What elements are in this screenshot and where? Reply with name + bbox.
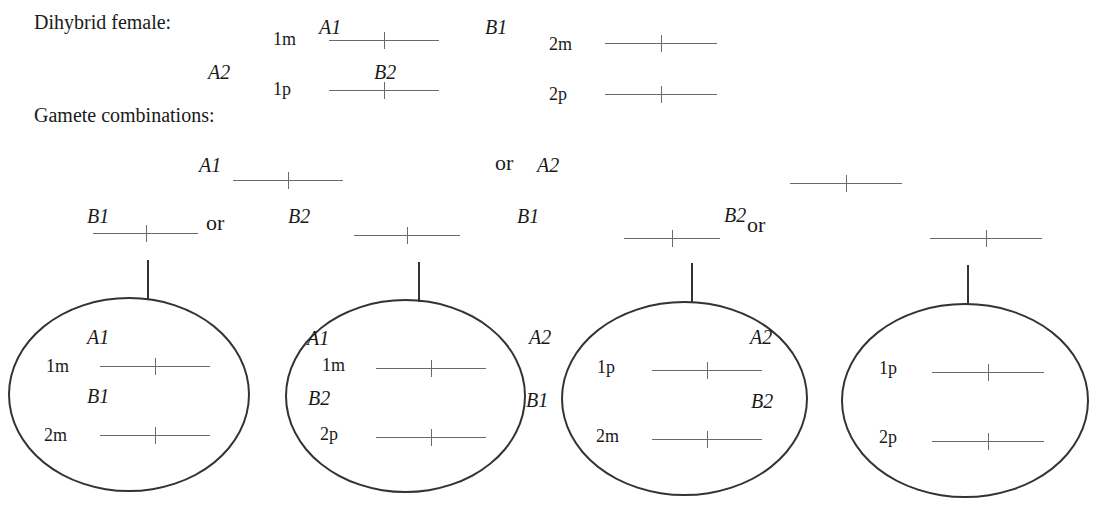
gamete-stem xyxy=(147,260,149,300)
gamete-1-chromosome-1 xyxy=(100,366,210,367)
gamete-cell-4 xyxy=(841,303,1089,498)
choice-allele-a1: A1 xyxy=(199,155,221,175)
gamete-3-locus-1: 1p xyxy=(597,358,615,376)
gamete-3-chromosome-2 xyxy=(652,439,762,440)
centromere-mark xyxy=(155,427,156,444)
centromere-mark xyxy=(988,433,989,450)
choice-allele-b2-right: B2 xyxy=(724,205,746,225)
gamete-2-allele-b: B2 xyxy=(308,388,330,408)
choice-allele-b1-right: B1 xyxy=(517,206,539,226)
choice-chromosome-a2 xyxy=(790,183,902,184)
centromere-mark xyxy=(431,360,432,377)
choice-allele-a2: A2 xyxy=(537,155,559,175)
locus-label-1p: 1p xyxy=(273,80,291,98)
gamete-stem xyxy=(418,262,420,302)
chromosome-2m xyxy=(605,43,717,44)
centromere-mark xyxy=(707,362,708,379)
centromere-mark xyxy=(661,35,662,52)
gamete-4-chromosome-1 xyxy=(932,372,1044,373)
gamete-3-allele-b-outside: B1 xyxy=(526,390,548,410)
centromere-mark xyxy=(384,82,385,99)
gamete-2-allele-a: A1 xyxy=(307,328,329,348)
choice-allele-b2-left: B2 xyxy=(288,206,310,226)
gamete-3-chromosome-1 xyxy=(652,370,762,371)
allele-label-a1: A1 xyxy=(319,17,341,37)
or-label: or xyxy=(747,214,765,236)
centromere-mark xyxy=(672,230,673,247)
chromosome-2p xyxy=(605,94,717,95)
choice-chromosome-b1-right xyxy=(624,238,720,239)
gamete-combinations-title: Gamete combinations: xyxy=(34,105,215,125)
gamete-stem xyxy=(967,265,969,305)
gamete-stem xyxy=(691,263,693,303)
gamete-1-allele-b: B1 xyxy=(87,386,109,406)
choice-chromosome-b2-left xyxy=(354,235,460,236)
gamete-3-allele-a-outside: A2 xyxy=(529,327,551,347)
gamete-1-locus-1: 1m xyxy=(46,357,69,375)
centromere-mark xyxy=(986,230,987,247)
centromere-mark xyxy=(988,364,989,381)
dihybrid-female-title: Dihybrid female: xyxy=(34,12,171,32)
gamete-2-locus-1: 1m xyxy=(322,356,345,374)
choice-chromosome-b1-left xyxy=(93,233,198,234)
allele-label-b1: B1 xyxy=(485,17,507,37)
gamete-1-allele-a: A1 xyxy=(87,327,109,347)
gamete-3-allele-b-inside: B2 xyxy=(751,391,773,411)
centromere-mark xyxy=(407,227,408,244)
gamete-3-allele-a-inside: A2 xyxy=(750,327,772,347)
or-label: or xyxy=(495,152,513,174)
centromere-mark xyxy=(707,431,708,448)
choice-chromosome-a1 xyxy=(233,180,343,181)
chromosome-1p xyxy=(329,90,439,91)
centromere-mark xyxy=(661,86,662,103)
centromere-mark xyxy=(288,172,289,189)
centromere-mark xyxy=(146,225,147,242)
gamete-1-chromosome-2 xyxy=(100,435,210,436)
allele-label-a2: A2 xyxy=(208,62,230,82)
gamete-2-chromosome-2 xyxy=(376,437,486,438)
gamete-4-locus-1: 1p xyxy=(879,359,897,377)
gamete-2-locus-2: 2p xyxy=(320,425,338,443)
gamete-4-locus-2: 2p xyxy=(879,428,897,446)
or-label: or xyxy=(206,212,224,234)
gamete-2-chromosome-1 xyxy=(376,368,486,369)
locus-label-2p: 2p xyxy=(549,85,567,103)
gamete-cell-1 xyxy=(8,297,250,492)
allele-label-b2: B2 xyxy=(374,62,396,82)
choice-allele-b1-left: B1 xyxy=(87,206,109,226)
gamete-4-chromosome-2 xyxy=(932,441,1044,442)
centromere-mark xyxy=(846,175,847,192)
centromere-mark xyxy=(384,32,385,49)
centromere-mark xyxy=(431,429,432,446)
locus-label-2m: 2m xyxy=(549,35,572,53)
locus-label-1m: 1m xyxy=(273,30,296,48)
gamete-3-locus-2: 2m xyxy=(596,427,619,445)
gamete-1-locus-2: 2m xyxy=(44,426,67,444)
choice-chromosome-b2-right xyxy=(930,238,1042,239)
chromosome-1m xyxy=(329,40,439,41)
centromere-mark xyxy=(155,358,156,375)
